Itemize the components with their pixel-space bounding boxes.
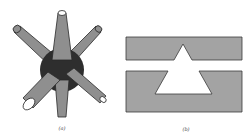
slab-triangle-figure (125, 0, 251, 140)
arm-top (52, 13, 72, 60)
panel-a: (a) (0, 0, 125, 140)
arm-bottom (55, 80, 69, 117)
panel-b: (b) (125, 0, 251, 140)
bottom-slab (126, 71, 242, 112)
star-node-figure (0, 0, 125, 140)
caption-a: (a) (47, 125, 77, 131)
caption-b: (b) (171, 126, 201, 132)
top-slab (126, 37, 242, 60)
